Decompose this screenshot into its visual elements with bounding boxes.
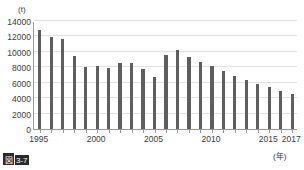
bar [130, 63, 133, 129]
x-axis-tick [269, 129, 270, 133]
x-axis-tick [63, 129, 64, 133]
y-axis-tick-label: 10000 [0, 49, 31, 57]
figure-container: (t) 02000400060008000100001200014000 199… [0, 0, 304, 170]
y-axis-tick-label: 2000 [0, 111, 31, 119]
x-axis-tick [109, 129, 110, 133]
bar [176, 50, 179, 129]
x-axis-tick [120, 129, 121, 133]
bar [199, 62, 202, 129]
bar [50, 37, 53, 129]
bar [153, 77, 156, 129]
x-axis-tick [200, 129, 201, 133]
x-axis-tick [258, 129, 259, 133]
x-axis-tick [97, 129, 98, 133]
x-axis-tick-label: 2017 [282, 134, 301, 144]
y-axis-tick-label: 14000 [0, 18, 31, 26]
bar [187, 57, 190, 130]
bar [73, 56, 76, 129]
x-axis-unit-label: (年) [273, 150, 286, 161]
y-axis-tick-label: 0 [0, 126, 31, 134]
bar [141, 69, 144, 129]
bar [245, 80, 248, 129]
bar [61, 39, 64, 129]
x-axis-tick [189, 129, 190, 133]
y-axis-tick-label: 12000 [0, 33, 31, 41]
bar [107, 68, 110, 129]
figure-caption-number: 3-7 [15, 155, 30, 165]
figure-caption: 図3-7 [3, 153, 30, 165]
x-axis-tick [246, 129, 247, 133]
x-axis-tick-label: 1995 [29, 134, 48, 144]
bar [291, 94, 294, 129]
x-axis-tick-label: 2005 [144, 134, 163, 144]
x-axis-tick [292, 129, 293, 133]
x-axis-tick [155, 129, 156, 133]
x-axis-tick [132, 129, 133, 133]
bar [38, 30, 41, 130]
x-axis-tick-label: 2010 [201, 134, 220, 144]
bar [233, 76, 236, 129]
x-axis-tick [212, 129, 213, 133]
bar [256, 84, 259, 129]
y-axis-tick-label: 8000 [0, 64, 31, 72]
y-axis-unit-label: (t) [18, 5, 26, 14]
figure-caption-prefix: 図 [3, 153, 14, 165]
plot-area [33, 22, 297, 130]
x-axis-tick [74, 129, 75, 133]
x-axis-tick-label: 2015 [259, 134, 278, 144]
x-axis-tick [40, 129, 41, 133]
bar [222, 71, 225, 129]
y-axis-tick-label: 6000 [0, 80, 31, 88]
x-axis-tick [177, 129, 178, 133]
x-axis-tick [281, 129, 282, 133]
bar [84, 67, 87, 129]
bar [210, 66, 213, 129]
bar [96, 66, 99, 129]
gridline [34, 35, 297, 36]
x-axis-tick [86, 129, 87, 133]
y-axis-tick-label: 4000 [0, 95, 31, 103]
bar [118, 63, 121, 129]
y-axis-tick-labels: 02000400060008000100001200014000 [0, 22, 31, 130]
gridline [34, 51, 297, 52]
gridline [34, 20, 297, 21]
x-axis-tick [166, 129, 167, 133]
x-axis-tick [143, 129, 144, 133]
x-axis-tick [51, 129, 52, 133]
bar [279, 91, 282, 129]
bar [268, 87, 271, 129]
x-axis-tick [235, 129, 236, 133]
bar [164, 55, 167, 129]
x-axis-tick [223, 129, 224, 133]
x-axis-tick-label: 2000 [87, 134, 106, 144]
